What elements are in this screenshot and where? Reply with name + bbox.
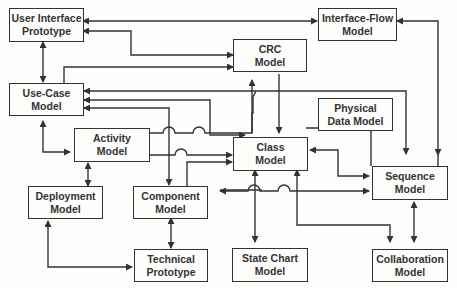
diagram: User Interface Prototype Interface-Flow … (0, 0, 457, 288)
node-sequence-model: Sequence Model (372, 166, 448, 200)
connectors (0, 0, 457, 288)
node-label: User Interface Prototype (11, 12, 81, 38)
node-technical-prototype: Technical Prototype (134, 249, 208, 282)
node-use-case-model: Use-Case Model (9, 83, 84, 116)
node-label: CRC Model (255, 43, 285, 69)
node-activity-model: Activity Model (74, 128, 150, 162)
node-state-chart-model: State Chart Model (232, 248, 308, 282)
node-user-interface-prototype: User Interface Prototype (9, 8, 84, 42)
node-label: Use-Case Model (23, 87, 71, 113)
node-label: Deployment Model (35, 190, 95, 216)
node-label: State Chart Model (242, 252, 298, 278)
node-label: Class Model (255, 141, 285, 167)
node-interface-flow-model: Interface-Flow Model (318, 8, 397, 41)
node-label: Collaboration Model (376, 253, 444, 279)
node-physical-data-model: Physical Data Model (318, 98, 393, 131)
node-collaboration-model: Collaboration Model (372, 249, 448, 282)
node-label: Interface-Flow Model (322, 12, 393, 38)
node-label: Activity Model (93, 132, 131, 158)
node-label: Physical Data Model (327, 102, 383, 128)
node-component-model: Component Model (133, 186, 208, 219)
node-label: Technical Prototype (146, 253, 195, 279)
node-label: Component Model (141, 190, 199, 216)
node-class-model: Class Model (233, 137, 308, 171)
node-label: Sequence Model (385, 170, 435, 196)
node-deployment-model: Deployment Model (28, 186, 103, 219)
node-crc-model: CRC Model (233, 39, 307, 72)
